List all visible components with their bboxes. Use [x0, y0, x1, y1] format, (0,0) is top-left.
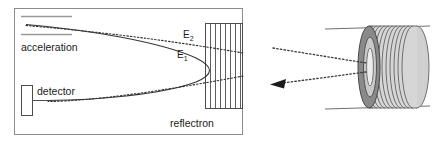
reflectron-label-text: reflectron	[170, 117, 214, 129]
reflectron-box	[206, 24, 243, 109]
energy-label-high-subscript: 2	[190, 35, 194, 42]
outgoing-ion-arrow-line	[283, 72, 366, 83]
incoming-ion-arrow	[273, 48, 366, 63]
reflectron-figure: acceleration detector reflectron	[0, 0, 441, 143]
cylinder-aperture	[367, 48, 374, 86]
detector-label: detector	[37, 85, 75, 97]
acceleration-label-text: acceleration	[21, 41, 78, 53]
detector-label-text: detector	[37, 85, 75, 97]
ion-arrows	[270, 48, 366, 89]
energy-label-low-subscript: 1	[184, 55, 188, 62]
reflectron-outline	[206, 24, 243, 109]
detector-plate	[22, 86, 33, 116]
reflectron-label: reflectron	[170, 117, 214, 129]
outgoing-ion-arrowhead-icon	[270, 79, 286, 89]
acceleration-label: acceleration	[21, 41, 78, 53]
